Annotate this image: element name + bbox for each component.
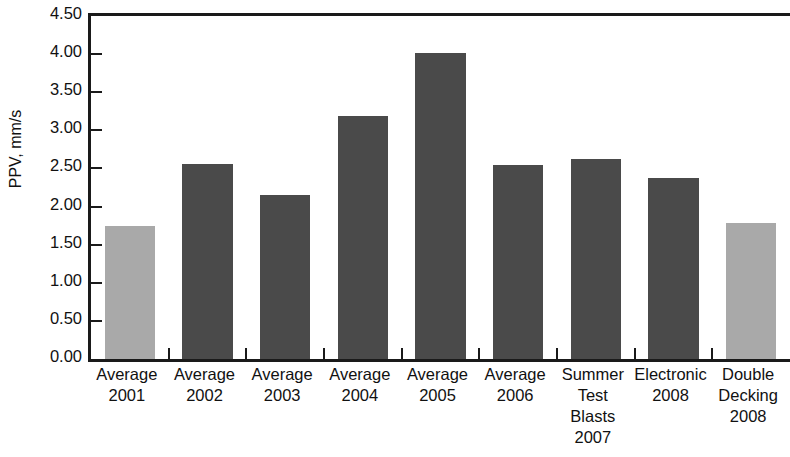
x-axis-tick-label-line: Average [476, 364, 554, 385]
y-axis-tick-label: 3.00 [20, 119, 82, 136]
x-axis-tick-labels: Average2001Average2002Average2003Average… [88, 364, 787, 457]
x-axis-tick-label-line: 2007 [554, 427, 632, 448]
y-axis-tick-label: 1.00 [20, 272, 82, 289]
x-axis-tick-label: DoubleDecking2008 [709, 364, 787, 427]
x-axis-tick-mark [556, 348, 558, 359]
x-axis-tick-label: Average2003 [243, 364, 321, 406]
y-axis-tick-mark [91, 320, 102, 322]
y-axis-tick-mark [91, 129, 102, 131]
y-axis-tick-mark [91, 167, 102, 169]
x-axis-tick-label: Average2001 [88, 364, 166, 406]
plot-area [88, 13, 790, 362]
bar [726, 223, 776, 359]
y-axis-tick-label: 2.00 [20, 196, 82, 213]
x-axis-tick-label-line: 2008 [709, 406, 787, 427]
x-axis-tick-label: Average2005 [399, 364, 477, 406]
x-axis-tick-label-line: 2008 [632, 385, 710, 406]
bar [415, 53, 465, 359]
bar [571, 159, 621, 359]
x-axis-tick-label-line: 2004 [321, 385, 399, 406]
x-axis-tick-mark [323, 348, 325, 359]
y-axis-tick-label: 3.50 [20, 81, 82, 98]
bar [260, 195, 310, 359]
x-axis-tick-label: Average2002 [166, 364, 244, 406]
x-axis-tick-label-line: 2006 [476, 385, 554, 406]
bar [105, 226, 155, 359]
x-axis-tick-label-line: Average [399, 364, 477, 385]
x-axis-tick-label-line: Blasts [554, 406, 632, 427]
plot-inner [91, 16, 790, 359]
bar [338, 116, 388, 359]
x-axis-tick-label: Average2004 [321, 364, 399, 406]
y-axis-tick-mark [91, 53, 102, 55]
y-axis-tick-label: 1.50 [20, 234, 82, 251]
x-axis-tick-label: Electronic2008 [632, 364, 710, 406]
bar [182, 164, 232, 359]
x-axis-tick-label-line: 2003 [243, 385, 321, 406]
x-axis-tick-label-line: 2002 [166, 385, 244, 406]
x-axis-tick-mark [711, 348, 713, 359]
x-axis-tick-label-line: Average [321, 364, 399, 385]
x-axis-tick-label-line: Double [709, 364, 787, 385]
y-axis-tick-label: 4.50 [20, 5, 82, 22]
x-axis-tick-mark [245, 348, 247, 359]
bar [493, 165, 543, 359]
y-axis-tick-mark [91, 91, 102, 93]
y-axis-tick-label: 0.50 [20, 310, 82, 327]
y-axis-tick-label: 2.50 [20, 157, 82, 174]
bar [648, 178, 698, 359]
x-axis-tick-label-line: Average [243, 364, 321, 385]
x-axis-tick-label-line: Test [554, 385, 632, 406]
x-axis-tick-label-line: Summer [554, 364, 632, 385]
y-axis-tick-mark [91, 206, 102, 208]
x-axis-tick-mark [478, 348, 480, 359]
x-axis-tick-label: Average2006 [476, 364, 554, 406]
y-axis-tick-labels: 4.504.003.503.002.502.001.501.000.500.00 [20, 0, 82, 370]
x-axis-tick-mark [634, 348, 636, 359]
x-axis-tick-label-line: Average [166, 364, 244, 385]
x-axis-tick-label-line: Decking [709, 385, 787, 406]
x-axis-tick-label-line: Average [88, 364, 166, 385]
x-axis-tick-label-line: Electronic [632, 364, 710, 385]
x-axis-tick-mark [168, 348, 170, 359]
y-axis-tick-label: 0.00 [20, 348, 82, 365]
y-axis-tick-mark [91, 282, 102, 284]
y-axis-tick-mark [91, 244, 102, 246]
x-axis-tick-label-line: 2005 [399, 385, 477, 406]
x-axis-tick-label: SummerTestBlasts2007 [554, 364, 632, 448]
x-axis-tick-mark [401, 348, 403, 359]
x-axis-tick-label-line: 2001 [88, 385, 166, 406]
y-axis-tick-label: 4.00 [20, 43, 82, 60]
